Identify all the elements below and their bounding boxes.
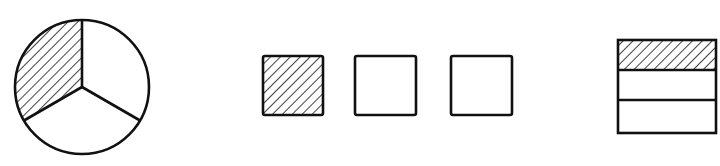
square-empty-2 bbox=[451, 56, 512, 115]
circle-divider-right bbox=[82, 87, 140, 121]
bar-thirds bbox=[618, 40, 716, 133]
fraction-diagram bbox=[0, 0, 720, 166]
squares-group bbox=[263, 56, 512, 115]
bar-shaded-section bbox=[618, 40, 716, 70]
circle-thirds bbox=[15, 20, 149, 154]
square-shaded bbox=[263, 56, 323, 115]
square-empty-1 bbox=[355, 56, 416, 115]
